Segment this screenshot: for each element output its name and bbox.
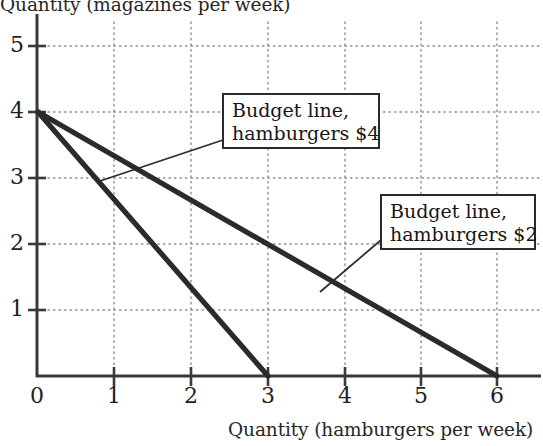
x-tick-label-2: 2	[178, 385, 204, 407]
annotation-budget2-line1: Budget line,	[390, 200, 507, 222]
y-tick-label-5: 5	[4, 34, 30, 56]
y-tick-label-4: 4	[4, 100, 30, 122]
x-tick-label-4: 4	[332, 385, 358, 407]
budget-line-chart: Quantity (magazines per week)	[0, 0, 543, 446]
y-tick-label-1: 1	[4, 298, 30, 320]
annotation-budget-line-hamburgers-2: Budget line, hamburgers $2	[380, 194, 536, 250]
leader-line-budget2	[320, 240, 381, 292]
x-tick-label-0: 0	[24, 385, 50, 407]
gridlines-horizontal	[37, 46, 541, 310]
y-tick-label-2: 2	[4, 232, 30, 254]
x-axis-title: Quantity (hamburgers per week)	[228, 419, 533, 440]
annotation-budget4-line2: hamburgers $4	[232, 122, 371, 145]
annotation-budget-line-hamburgers-4: Budget line, hamburgers $4	[222, 93, 380, 149]
x-tick-label-1: 1	[101, 385, 127, 407]
x-tick-label-3: 3	[255, 385, 281, 407]
annotation-budget4-line1: Budget line,	[232, 99, 349, 121]
x-tick-label-6: 6	[484, 385, 510, 407]
annotation-budget2-line2: hamburgers $2	[390, 223, 527, 246]
x-tick-label-5: 5	[408, 385, 434, 407]
y-tick-label-3: 3	[4, 166, 30, 188]
budget-line-hamburgers-4	[38, 112, 268, 376]
